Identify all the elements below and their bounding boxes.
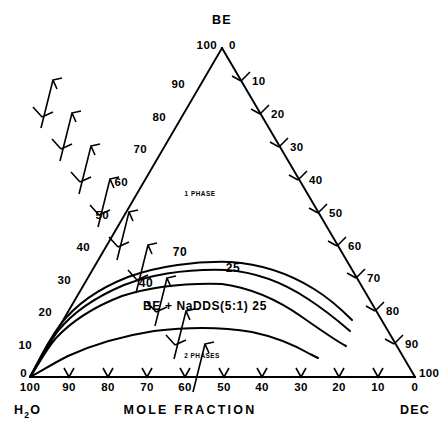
left-tick-label-60: 60 [114,176,128,188]
curve-labels: 70 25 40 BE + NaDDS(5:1) 25 [139,245,267,313]
right-tick-label-40: 40 [309,174,323,186]
left-axis-ticks [41,78,214,392]
curve-label-be-nadds: BE + NaDDS(5:1) 25 [143,299,267,313]
left-tick-label-10: 10 [18,339,32,351]
bottom-tick-label-70: 70 [140,381,154,393]
bottom-left-top-value: 0 [20,367,27,379]
left-tick-label-30: 30 [57,274,71,286]
bottom-tick-label-30: 30 [294,381,308,393]
bottom-tick-label-50: 50 [217,381,231,393]
bottom-tick-label-80: 80 [101,381,115,393]
triangle-axes [30,48,415,377]
region-label-one-phase: 1 PHASE [185,190,216,197]
right-axis-tick-labels: 10 20 30 40 50 60 70 80 90 [252,75,419,350]
vertex-values: 100 0 0 100 100 0 [20,39,440,393]
right-tick-label-70: 70 [367,272,381,284]
bottom-axis-tick-labels: 90 80 70 60 50 40 30 20 10 [62,381,385,393]
left-tick-label-20: 20 [38,306,52,318]
bottom-tick-label-40: 40 [255,381,269,393]
h2o-tail: O [30,403,41,417]
curve-25 [30,270,350,377]
left-tick-label-40: 40 [76,241,90,253]
bottom-axis-title: MOLE FRACTION [124,403,257,417]
left-tick-10 [193,342,214,392]
right-tick-label-90: 90 [405,338,419,350]
binodal-curves [30,262,352,377]
right-tick-label-10: 10 [252,75,266,87]
right-tick-label-30: 30 [290,141,304,153]
curve-label-25: 25 [226,261,241,275]
h2o-main: H [14,403,24,417]
apex-label-be: BE [212,13,232,27]
curve-label-70: 70 [173,245,188,259]
left-tick-label-80: 80 [152,111,166,123]
apex-left-value: 100 [197,39,217,51]
bottom-tick-label-60: 60 [178,381,192,393]
region-label-two-phases: 2 PHASES [184,352,220,359]
vertex-label-dec: DEC [400,403,430,417]
bottom-axis-tickmarks [64,368,383,377]
right-tick-label-20: 20 [271,108,285,120]
right-tick-label-60: 60 [348,240,362,252]
left-tick-label-70: 70 [133,143,147,155]
left-tick-label-50: 50 [95,209,109,221]
right-tick-label-80: 80 [386,305,400,317]
curve-40 [30,284,346,377]
left-tick-90 [41,78,62,128]
left-tick-80 [60,111,81,161]
bottom-right-top-value: 100 [419,367,439,379]
bottom-right-bottom-value: 0 [412,381,419,393]
diagram-canvas: 10 20 30 40 50 60 70 80 90 10 20 30 40 5… [0,0,442,430]
right-tick-label-50: 50 [329,207,343,219]
left-tick-70 [79,144,100,194]
bottom-left-bottom-value: 100 [20,381,40,393]
vertex-label-h2o: H2O [14,403,41,420]
left-tick-label-90: 90 [171,78,185,90]
bottom-tick-label-90: 90 [62,381,76,393]
curve-label-40: 40 [139,276,154,290]
bottom-tick-label-10: 10 [371,381,385,393]
ternary-phase-diagram-figure: 10 20 30 40 50 60 70 80 90 10 20 30 40 5… [0,0,442,430]
left-tick-50 [117,210,138,260]
bottom-tick-label-20: 20 [332,381,346,393]
apex-right-value: 0 [229,39,236,51]
